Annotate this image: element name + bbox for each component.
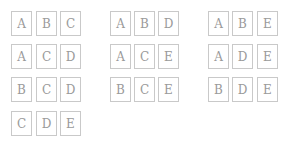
- letter-box: A: [11, 44, 32, 69]
- letter-box: A: [208, 11, 229, 36]
- letter-box: B: [11, 77, 32, 102]
- letter-box: E: [257, 11, 278, 36]
- letter-box: B: [36, 11, 57, 36]
- letter-box: D: [36, 111, 57, 136]
- letter-box: A: [11, 11, 32, 36]
- letter-box: D: [60, 77, 81, 102]
- letter-box: C: [134, 44, 155, 69]
- letter-box: E: [158, 44, 179, 69]
- letter-box: D: [60, 44, 81, 69]
- letter-box: C: [134, 77, 155, 102]
- letter-box: D: [232, 77, 253, 102]
- letter-box: C: [36, 77, 57, 102]
- letter-box: B: [134, 11, 155, 36]
- letter-box: C: [36, 44, 57, 69]
- letter-box: E: [257, 44, 278, 69]
- letter-box: C: [11, 111, 32, 136]
- letter-box: B: [232, 11, 253, 36]
- letter-box: D: [232, 44, 253, 69]
- letter-box: B: [208, 77, 229, 102]
- letter-box: C: [60, 11, 81, 36]
- letter-box: A: [208, 44, 229, 69]
- letter-box: B: [110, 77, 131, 102]
- letter-box: A: [110, 44, 131, 69]
- letter-box: E: [60, 111, 81, 136]
- letter-box: E: [257, 77, 278, 102]
- letter-box: A: [110, 11, 131, 36]
- letter-box: D: [158, 11, 179, 36]
- letter-box: E: [158, 77, 179, 102]
